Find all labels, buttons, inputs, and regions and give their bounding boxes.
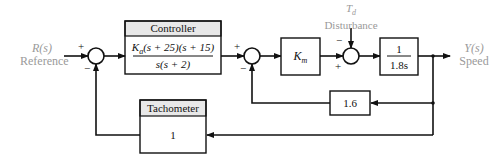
output-label: Y(s) Speed — [452, 42, 496, 68]
inner-feedback-gain: 1.6 — [330, 96, 370, 110]
tachometer-title: Tachometer — [140, 101, 206, 115]
plant-denominator: 1.8s — [380, 59, 418, 71]
summing-junction-1 — [88, 48, 104, 64]
disturbance-subscript: d — [352, 8, 356, 17]
motor-gain-text: Km — [281, 49, 320, 68]
input-description: Reference — [20, 55, 64, 68]
motor-gain-subscript: m — [302, 56, 308, 65]
summing-junction-2 — [244, 48, 260, 64]
controller-numerator-factors: (s + 25)(s + 15) — [143, 41, 214, 53]
disturbance-label: Td Disturbance — [316, 2, 386, 31]
plant-numerator: 1 — [380, 43, 418, 55]
motor-gain-symbol: K — [294, 49, 302, 63]
sum1-minus-sign: − — [84, 62, 90, 74]
block-diagram-canvas — [0, 0, 500, 163]
sum2-minus-sign: − — [240, 62, 246, 74]
controller-denominator: s(s + 2) — [125, 58, 221, 71]
output-description: Speed — [452, 55, 496, 68]
input-label: R(s) Reference — [20, 42, 64, 68]
sum2-plus-sign: + — [234, 40, 240, 52]
tachometer-gain: 1 — [140, 128, 206, 142]
controller-title: Controller — [125, 22, 221, 35]
controller-numerator: Ka(s + 25)(s + 15) — [125, 41, 221, 58]
sum1-plus-sign: + — [78, 40, 84, 52]
sum3-minus-sign: − — [336, 34, 342, 46]
summing-junction-3 — [343, 48, 359, 64]
disturbance-description: Disturbance — [316, 19, 386, 31]
sum3-plus-sign: + — [335, 60, 341, 72]
